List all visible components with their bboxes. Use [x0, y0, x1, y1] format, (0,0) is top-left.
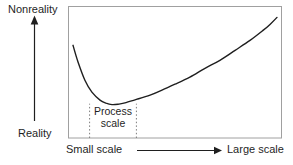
curve-line [73, 17, 277, 104]
process-scale-label: Process scale [90, 106, 136, 129]
x-axis-arrowhead-icon [214, 147, 222, 154]
figure-canvas [0, 0, 293, 165]
y-axis-bottom-label: Reality [18, 127, 52, 139]
y-axis-arrowhead-icon [31, 16, 39, 25]
figure-root: Nonreality Reality Small scale Large sca… [0, 0, 293, 165]
x-axis-right-label: Large scale [227, 143, 284, 155]
x-axis-left-label: Small scale [66, 143, 122, 155]
y-axis-top-label: Nonreality [8, 3, 58, 15]
